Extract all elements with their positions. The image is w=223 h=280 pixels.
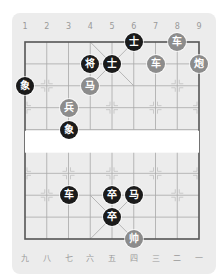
red-piece[interactable]: 车 [147, 55, 165, 73]
red-piece[interactable]: 马 [81, 77, 99, 95]
black-piece[interactable]: 士 [103, 55, 121, 73]
file-label-top: 8 [170, 22, 184, 31]
file-label-bottom: 三 [149, 252, 163, 263]
black-piece[interactable]: 将 [81, 55, 99, 73]
file-label-top: 9 [192, 22, 206, 31]
file-label-bottom: 五 [105, 252, 119, 263]
red-piece[interactable]: 兵 [60, 99, 78, 117]
red-piece[interactable]: 帅 [125, 230, 143, 248]
file-label-bottom: 六 [83, 252, 97, 263]
file-label-top: 2 [40, 22, 54, 31]
board-grid [0, 0, 223, 280]
black-piece[interactable]: 卒 [103, 208, 121, 226]
file-label-top: 3 [62, 22, 76, 31]
river [25, 131, 199, 153]
red-piece[interactable]: 炮 [190, 55, 208, 73]
black-piece[interactable]: 车 [60, 186, 78, 204]
file-label-top: 4 [83, 22, 97, 31]
file-label-bottom: 一 [192, 252, 206, 263]
black-piece[interactable]: 象 [60, 121, 78, 139]
file-label-bottom: 九 [18, 252, 32, 263]
black-piece[interactable]: 士 [125, 33, 143, 51]
file-label-top: 6 [127, 22, 141, 31]
file-label-top: 1 [18, 22, 32, 31]
file-label-bottom: 八 [40, 252, 54, 263]
file-label-bottom: 二 [170, 252, 184, 263]
black-piece[interactable]: 象 [16, 77, 34, 95]
black-piece[interactable]: 马 [125, 186, 143, 204]
file-label-top: 7 [149, 22, 163, 31]
black-piece[interactable]: 卒 [103, 186, 121, 204]
file-label-bottom: 四 [127, 252, 141, 263]
file-label-top: 5 [105, 22, 119, 31]
file-label-bottom: 七 [62, 252, 76, 263]
red-piece[interactable]: 车 [168, 33, 186, 51]
